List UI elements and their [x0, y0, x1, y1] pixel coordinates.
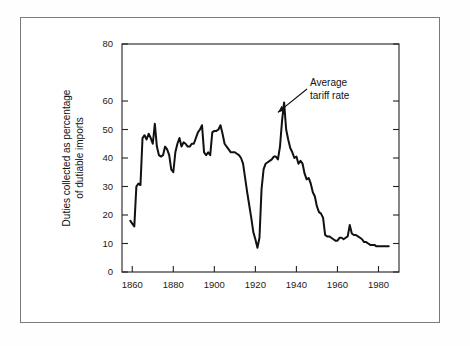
x-axis-ticks	[132, 266, 378, 272]
y-tick-label: 0	[108, 266, 113, 277]
x-tick-label: 1960	[327, 279, 348, 290]
y-axis-title-line1: Duties collected as percentage	[61, 89, 72, 226]
annotation-label-line2: tariff rate	[310, 90, 350, 101]
x-tick-label: 1980	[368, 279, 389, 290]
y-axis-tick-labels: 010203040506080	[102, 38, 113, 277]
screenshot-page: 010203040506080 186018801900192019401960…	[0, 0, 470, 346]
y-tick-label: 20	[102, 209, 113, 220]
x-tick-label: 1860	[122, 279, 143, 290]
x-tick-label: 1900	[204, 279, 225, 290]
plot-area-border	[122, 44, 399, 272]
x-tick-label: 1940	[286, 279, 307, 290]
x-tick-label: 1920	[245, 279, 266, 290]
x-tick-label: 1880	[163, 279, 184, 290]
y-tick-label: 30	[102, 181, 113, 192]
x-axis-tick-labels: 1860188019001920194019601980	[122, 279, 389, 290]
y-axis-title-line2: of dutiable imports	[74, 117, 85, 199]
plot-axes	[122, 44, 399, 272]
y-tick-label: 60	[102, 95, 113, 106]
y-axis-ticks-right	[393, 44, 399, 272]
annotation-label-line1: Average	[310, 77, 348, 88]
tariff-rate-line-chart: 010203040506080 186018801900192019401960…	[0, 0, 470, 346]
y-tick-label: 50	[102, 124, 113, 135]
y-axis-title: Duties collected as percentage of dutiab…	[61, 89, 85, 226]
y-tick-label: 10	[102, 238, 113, 249]
y-tick-label: 40	[102, 152, 113, 163]
y-tick-label: 80	[102, 38, 113, 49]
average-tariff-rate-line	[130, 102, 389, 247]
annotation-arrow	[278, 89, 307, 112]
y-axis-ticks	[122, 44, 128, 272]
